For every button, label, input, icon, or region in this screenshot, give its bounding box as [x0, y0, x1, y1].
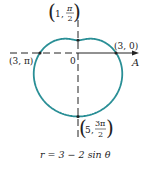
svg-text:,: , — [91, 125, 94, 135]
point-3-pi — [39, 52, 42, 55]
pole-label: 0 — [70, 56, 76, 66]
axis-label-a: A — [131, 57, 139, 68]
arrow-icon — [132, 51, 139, 56]
svg-text:3π: 3π — [95, 119, 105, 128]
label-3-pi: (3, π) — [9, 56, 33, 66]
label-5-3pi-2: ( 5 , 3π 2 ) — [79, 116, 114, 140]
svg-text:,: , — [61, 9, 64, 19]
svg-text:): ) — [106, 116, 114, 140]
point-1-pi-2 — [77, 39, 80, 42]
svg-text:π: π — [66, 4, 73, 13]
polar-graph: 0 A (3, 0) (3, π) ( 1 , π 2 ) ( 5 , 3π 2… — [0, 0, 147, 172]
svg-text:2: 2 — [98, 130, 103, 139]
label-1-pi-2: ( 1 , π 2 ) — [48, 0, 81, 24]
svg-text:1: 1 — [55, 9, 61, 19]
svg-text:): ) — [73, 0, 81, 24]
point-3-0 — [115, 52, 118, 55]
equation-caption: r = 3 − 2 sin θ — [40, 149, 111, 160]
label-3-0: (3, 0) — [114, 41, 138, 51]
svg-text:2: 2 — [68, 14, 73, 23]
